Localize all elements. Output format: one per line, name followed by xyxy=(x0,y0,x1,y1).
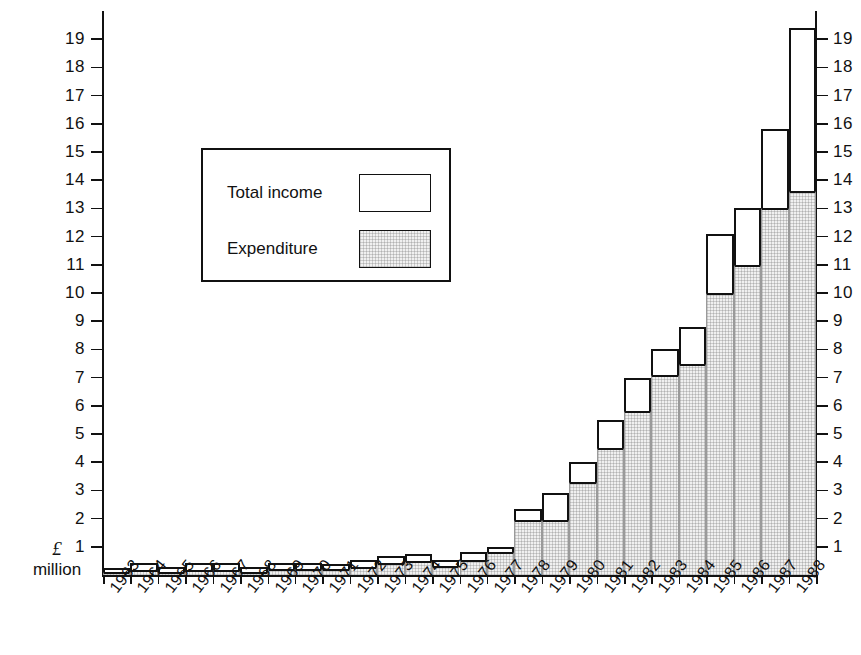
y-tick-right-17 xyxy=(816,95,828,97)
y-tick-left-11 xyxy=(91,264,103,266)
y-tick-left-15 xyxy=(91,151,103,153)
bar-expenditure xyxy=(761,208,788,575)
y-label-right-18: 18 xyxy=(833,58,853,75)
y-tick-right-9 xyxy=(816,320,828,322)
bar-group xyxy=(350,11,377,575)
bar-group xyxy=(405,11,432,575)
chart-legend: Total income Expenditure xyxy=(201,148,451,282)
y-label-right-15: 15 xyxy=(833,143,853,160)
bar-group xyxy=(322,11,349,575)
y-tick-right-15 xyxy=(816,151,828,153)
y-label-right-8: 8 xyxy=(833,340,843,357)
x-tick xyxy=(103,575,105,584)
y-label-right-5: 5 xyxy=(833,425,843,442)
legend-label-total-income: Total income xyxy=(227,183,359,203)
y-label-right-11: 11 xyxy=(833,256,852,273)
bar-expenditure xyxy=(651,375,678,575)
bar-expenditure xyxy=(679,364,706,576)
bar-group xyxy=(240,11,267,575)
bar-group xyxy=(569,11,596,575)
y-label-left-3: 3 xyxy=(75,481,85,498)
bar-group xyxy=(597,11,624,575)
legend-item-expenditure: Expenditure xyxy=(203,228,449,270)
y-label-right-13: 13 xyxy=(833,199,853,216)
y-tick-right-4 xyxy=(816,461,828,463)
y-label-right-17: 17 xyxy=(833,87,853,104)
y-tick-left-6 xyxy=(91,405,103,407)
legend-item-total-income: Total income xyxy=(203,172,449,214)
y-tick-right-13 xyxy=(816,208,828,210)
y-tick-left-14 xyxy=(91,179,103,181)
y-label-left-6: 6 xyxy=(75,397,85,414)
bar-group xyxy=(487,11,514,575)
y-tick-left-5 xyxy=(91,433,103,435)
y-tick-left-17 xyxy=(91,95,103,97)
y-label-right-12: 12 xyxy=(833,228,853,245)
y-tick-right-10 xyxy=(816,292,828,294)
bar-group xyxy=(706,11,733,575)
y-label-left-7: 7 xyxy=(75,369,85,386)
bar-group xyxy=(432,11,459,575)
bar-group xyxy=(103,11,130,575)
bar-expenditure xyxy=(597,448,624,575)
y-label-left-12: 12 xyxy=(65,228,85,245)
bar-group xyxy=(213,11,240,575)
y-label-left-5: 5 xyxy=(75,425,85,442)
y-tick-left-13 xyxy=(91,208,103,210)
currency-symbol: £ xyxy=(18,538,96,559)
y-label-right-10: 10 xyxy=(833,284,853,301)
bar-group xyxy=(624,11,651,575)
bar-group xyxy=(158,11,185,575)
y-label-left-4: 4 xyxy=(75,453,85,470)
bar-group xyxy=(514,11,541,575)
y-label-left-11: 11 xyxy=(66,256,85,273)
y-tick-left-9 xyxy=(91,320,103,322)
y-label-right-3: 3 xyxy=(833,481,843,498)
legend-swatch-expenditure xyxy=(359,230,431,268)
plot-area xyxy=(103,11,816,575)
y-tick-left-2 xyxy=(91,518,103,520)
chart-container: 1122334455667788991010111112121313141415… xyxy=(0,0,861,655)
y-label-left-10: 10 xyxy=(65,284,85,301)
y-label-right-2: 2 xyxy=(833,510,843,527)
y-tick-right-19 xyxy=(816,38,828,40)
y-tick-right-8 xyxy=(816,349,828,351)
y-label-left-17: 17 xyxy=(65,87,85,104)
bar-group xyxy=(761,11,788,575)
y-tick-right-5 xyxy=(816,433,828,435)
x-axis-labels: 1963196419651966196719681969197019711972… xyxy=(103,586,816,655)
y-tick-left-8 xyxy=(91,349,103,351)
y-label-right-16: 16 xyxy=(833,115,853,132)
y-tick-right-16 xyxy=(816,123,828,125)
legend-swatch-total-income xyxy=(359,174,431,212)
bar-group xyxy=(295,11,322,575)
y-label-left-19: 19 xyxy=(65,30,85,47)
legend-label-expenditure: Expenditure xyxy=(227,239,359,259)
y-label-left-13: 13 xyxy=(65,199,85,216)
bar-expenditure xyxy=(624,411,651,575)
bar-group xyxy=(651,11,678,575)
y-tick-right-6 xyxy=(816,405,828,407)
bar-group xyxy=(460,11,487,575)
y-tick-left-3 xyxy=(91,490,103,492)
y-axis-unit-label: £ million xyxy=(18,538,96,580)
bar-group xyxy=(789,11,816,575)
y-tick-left-7 xyxy=(91,377,103,379)
bar-group xyxy=(734,11,761,575)
y-tick-right-7 xyxy=(816,377,828,379)
y-label-right-7: 7 xyxy=(833,369,843,386)
y-label-left-15: 15 xyxy=(65,143,85,160)
y-tick-left-19 xyxy=(91,38,103,40)
bar-expenditure xyxy=(706,293,733,575)
bar-expenditure xyxy=(789,191,816,575)
y-tick-left-18 xyxy=(91,67,103,69)
y-label-left-9: 9 xyxy=(75,312,85,329)
y-label-left-14: 14 xyxy=(65,171,85,188)
bar-group xyxy=(268,11,295,575)
bar-group xyxy=(377,11,404,575)
y-tick-left-16 xyxy=(91,123,103,125)
unit-word: million xyxy=(18,559,96,580)
bar-group xyxy=(185,11,212,575)
y-tick-left-12 xyxy=(91,236,103,238)
bar-expenditure xyxy=(734,265,761,575)
